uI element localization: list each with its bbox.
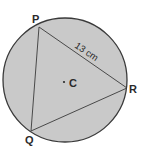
center-label: C: [69, 77, 77, 89]
vertex-label-q: Q: [25, 134, 34, 146]
circle: [3, 18, 127, 142]
center-point: [63, 81, 65, 83]
diagram-canvas: C P R Q 13 cm: [0, 0, 148, 152]
vertex-label-p: P: [32, 13, 39, 25]
vertex-label-r: R: [129, 83, 137, 95]
